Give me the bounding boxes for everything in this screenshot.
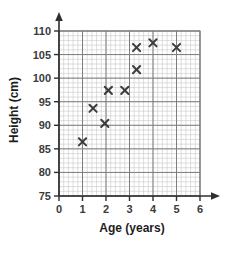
y-tick-label: 100 bbox=[33, 72, 51, 84]
x-tick-label: 0 bbox=[56, 203, 62, 215]
y-tick-label: 90 bbox=[39, 119, 51, 131]
y-tick-label: 75 bbox=[39, 190, 51, 202]
x-tick-label: 1 bbox=[79, 203, 85, 215]
y-tick-label: 105 bbox=[33, 49, 51, 61]
x-tick-label: 5 bbox=[173, 203, 179, 215]
y-tick-label: 85 bbox=[39, 143, 51, 155]
y-tick-label: 95 bbox=[39, 96, 51, 108]
x-tick-label: 2 bbox=[103, 203, 109, 215]
x-tick-label: 6 bbox=[197, 203, 203, 215]
scatter-chart-figure: 7580859095100105110 0123456 1.0, 86.51.4… bbox=[0, 0, 234, 253]
y-tick-label: 110 bbox=[33, 25, 51, 37]
chart-background bbox=[0, 0, 234, 253]
scatter-plot-svg: 7580859095100105110 0123456 1.0, 86.51.4… bbox=[0, 0, 234, 253]
x-tick-label: 4 bbox=[150, 203, 157, 215]
y-axis-title: Height (cm) bbox=[7, 77, 21, 143]
x-axis-title: Age (years) bbox=[99, 221, 164, 235]
x-tick-label: 3 bbox=[126, 203, 132, 215]
y-tick-label: 80 bbox=[39, 166, 51, 178]
